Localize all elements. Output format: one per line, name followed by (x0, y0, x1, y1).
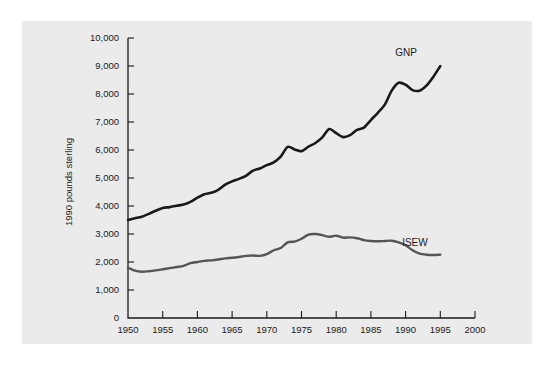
y-tick-label: 7,000 (95, 116, 119, 127)
axes-group (128, 38, 475, 318)
y-tick-label: 10,000 (90, 32, 119, 43)
x-tick-label: 1985 (360, 324, 381, 335)
x-tick-label: 1975 (291, 324, 312, 335)
y-tick-label: 3,000 (95, 228, 119, 239)
y-tick-label: 9,000 (95, 60, 119, 71)
y-axis-tick-labels: 01,0002,0003,0004,0005,0006,0007,0008,00… (90, 32, 119, 323)
chart-plot-area: 01,0002,0003,0004,0005,0006,0007,0008,00… (0, 0, 554, 365)
x-tick-label: 1970 (256, 324, 277, 335)
series-line-isew (128, 234, 440, 272)
tick-marks-group (128, 38, 475, 318)
y-tick-label: 5,000 (95, 172, 119, 183)
x-tick-label: 1990 (395, 324, 416, 335)
x-tick-label: 1960 (187, 324, 208, 335)
x-tick-label: 1980 (326, 324, 347, 335)
x-tick-label: 1965 (222, 324, 243, 335)
y-tick-label: 0 (114, 312, 119, 323)
series-labels-group: GNPISEW (395, 47, 428, 248)
data-series-group (128, 66, 440, 272)
chart-figure: 01,0002,0003,0004,0005,0006,0007,0008,00… (0, 0, 554, 365)
x-tick-label: 1955 (152, 324, 173, 335)
y-axis-title-group: 1990 pounds sterling (63, 138, 74, 226)
y-axis-title: 1990 pounds sterling (63, 138, 74, 226)
series-line-gnp (128, 66, 440, 220)
y-tick-label: 4,000 (95, 200, 119, 211)
y-tick-label: 6,000 (95, 144, 119, 155)
x-tick-label: 1950 (117, 324, 138, 335)
y-tick-label: 8,000 (95, 88, 119, 99)
x-tick-label: 1995 (430, 324, 451, 335)
series-label-isew: ISEW (402, 237, 428, 248)
y-tick-label: 1,000 (95, 284, 119, 295)
series-label-gnp: GNP (395, 47, 417, 58)
axis-lines (128, 38, 475, 318)
y-tick-label: 2,000 (95, 256, 119, 267)
x-axis-tick-labels: 1950195519601965197019751980198519901995… (117, 324, 485, 335)
x-tick-label: 2000 (464, 324, 485, 335)
